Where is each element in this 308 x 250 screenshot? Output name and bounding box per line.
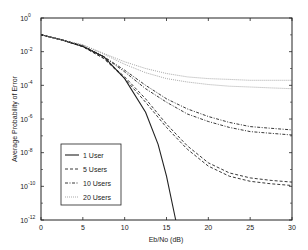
x-tick-label: 15 — [163, 224, 171, 231]
y-tick-exponent: -12 — [28, 214, 35, 220]
y-tick-label: 10 — [20, 183, 28, 190]
legend: 1 User5 Users10 Users20 Users — [61, 144, 121, 205]
y-tick-label: 10 — [20, 82, 28, 89]
curve-10-users — [41, 35, 292, 135]
legend-label: 20 Users — [83, 194, 112, 201]
y-tick-exponent: -10 — [28, 180, 35, 186]
curve-20-users — [41, 35, 292, 81]
x-tick-label: 5 — [81, 224, 85, 231]
y-tick-exponent: 0 — [28, 12, 31, 18]
curve-10-users — [41, 35, 292, 130]
x-tick-label: 30 — [288, 224, 296, 231]
y-tick-label: 10 — [20, 149, 28, 156]
y-tick-label: 10 — [20, 217, 28, 224]
y-tick-exponent: -2 — [28, 46, 33, 52]
y-tick-exponent: -8 — [28, 147, 33, 153]
legend-label: 10 Users — [83, 180, 112, 187]
x-tick-label: 20 — [204, 224, 212, 231]
y-tick-label: 10 — [20, 116, 28, 123]
x-axis-label: Eb/No (dB) — [149, 236, 184, 244]
legend-label: 5 Users — [83, 166, 108, 173]
y-axis-label: Average Probability of Error — [11, 75, 19, 162]
y-tick-label: 10 — [20, 15, 28, 22]
ber-chart: 051015202530 10010-210-410-610-810-1010-… — [0, 0, 308, 250]
curve-20-users — [41, 35, 292, 89]
x-tick-label: 10 — [121, 224, 129, 231]
y-tick-exponent: -6 — [28, 113, 33, 119]
legend-label: 1 User — [83, 152, 104, 159]
x-tick-label: 25 — [246, 224, 254, 231]
y-tick-label: 10 — [20, 48, 28, 55]
y-tick-exponent: -4 — [28, 79, 33, 85]
x-tick-label: 0 — [39, 224, 43, 231]
